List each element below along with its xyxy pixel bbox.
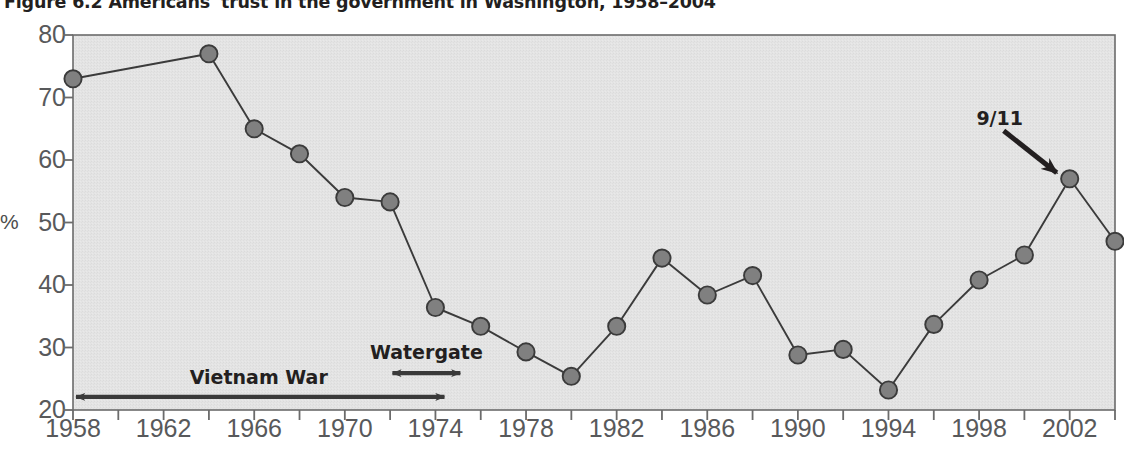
data-point-2000 (1016, 246, 1033, 263)
figure-container: Figure 6.2 Americans' trust in the gover… (0, 0, 1124, 450)
data-point-1992 (835, 341, 852, 358)
x-axis-ticks (73, 410, 1115, 420)
data-point-1958 (64, 70, 81, 87)
nine-eleven-label: 9/11 (976, 107, 1023, 129)
data-point-1998 (971, 271, 988, 288)
data-point-1964 (200, 45, 217, 62)
data-point-1986 (699, 286, 716, 303)
line-chart-plot: Vietnam War Watergate 9/11 (0, 0, 1124, 450)
data-point-1972 (382, 193, 399, 210)
data-point-1966 (246, 120, 263, 137)
data-point-1996 (925, 316, 942, 333)
data-point-1988 (744, 267, 761, 284)
data-point-1982 (608, 318, 625, 335)
data-point-1968 (291, 145, 308, 162)
watergate-label: Watergate (370, 341, 483, 363)
data-point-1978 (517, 343, 534, 360)
data-point-2004 (1106, 233, 1123, 250)
data-point-1974 (427, 299, 444, 316)
data-point-1990 (789, 346, 806, 363)
data-point-1984 (653, 250, 670, 267)
y-axis-ticks (63, 35, 73, 410)
data-point-1994 (880, 381, 897, 398)
data-point-1970 (336, 189, 353, 206)
data-point-1980 (563, 368, 580, 385)
vietnam-war-label: Vietnam War (190, 366, 329, 388)
plot-background (73, 35, 1115, 410)
data-point-1976 (472, 318, 489, 335)
data-point-2002 (1061, 170, 1078, 187)
